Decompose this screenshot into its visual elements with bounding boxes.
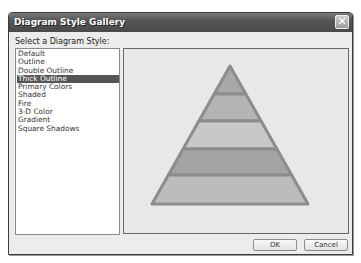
pyramid-layer bbox=[199, 94, 261, 121]
cancel-button[interactable]: Cancel bbox=[304, 239, 348, 251]
diagram-preview bbox=[123, 48, 349, 234]
title-bar[interactable]: Diagram Style Gallery ✕ bbox=[9, 13, 352, 32]
close-icon: ✕ bbox=[337, 15, 346, 28]
diagram-style-list[interactable]: DefaultOutlineDouble OutlineThick Outlin… bbox=[15, 48, 120, 235]
close-button[interactable]: ✕ bbox=[335, 15, 349, 29]
diagram-style-gallery-dialog: Diagram Style Gallery ✕ Select a Diagram… bbox=[8, 12, 353, 255]
pyramid-layer bbox=[183, 121, 277, 149]
pyramid-layer bbox=[214, 66, 246, 94]
select-style-label: Select a Diagram Style: bbox=[15, 37, 109, 46]
pyramid-diagram bbox=[124, 49, 348, 233]
pyramid-layer bbox=[152, 175, 308, 204]
pyramid-layer bbox=[168, 149, 291, 175]
dialog-title: Diagram Style Gallery bbox=[14, 17, 125, 27]
ok-button[interactable]: OK bbox=[253, 239, 297, 251]
style-item[interactable]: Shaded bbox=[17, 91, 119, 99]
style-item[interactable]: Square Shadows bbox=[17, 125, 119, 133]
